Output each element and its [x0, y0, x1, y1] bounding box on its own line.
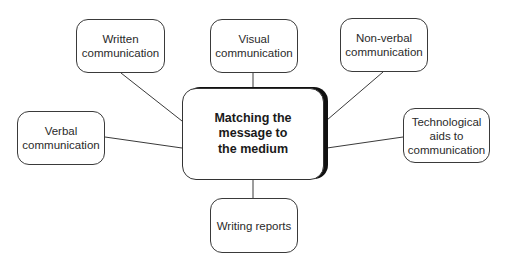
node-label: communication	[215, 46, 292, 60]
central-topic-line: message to	[219, 126, 288, 142]
node-technological-aids: Technological aids to communication	[403, 108, 490, 163]
connector-verbal	[105, 137, 182, 148]
node-label: Technological	[408, 115, 485, 129]
node-nonverbal-communication: Non-verbal communication	[340, 18, 428, 72]
node-label: aids to	[408, 129, 485, 143]
node-label: Visual	[215, 32, 292, 46]
node-label: communication	[345, 45, 422, 59]
node-written-communication: Written communication	[76, 19, 165, 73]
central-topic: Matching the message to the medium	[182, 88, 324, 180]
central-topic-line: the medium	[218, 142, 288, 158]
node-label: Written	[82, 32, 159, 46]
central-topic-line: Matching the	[214, 111, 291, 127]
connector-nonverbal	[327, 72, 383, 120]
node-visual-communication: Visual communication	[210, 19, 298, 73]
node-label: Writing reports	[217, 219, 292, 233]
node-label: Verbal	[22, 124, 99, 138]
connector-technological	[327, 137, 403, 148]
node-label: communication	[22, 138, 99, 152]
node-label: communication	[82, 46, 159, 60]
node-label: Non-verbal	[345, 31, 422, 45]
node-writing-reports: Writing reports	[210, 198, 298, 253]
node-label: communication	[408, 143, 485, 157]
node-verbal-communication: Verbal communication	[17, 111, 105, 165]
connector-written	[121, 73, 182, 121]
